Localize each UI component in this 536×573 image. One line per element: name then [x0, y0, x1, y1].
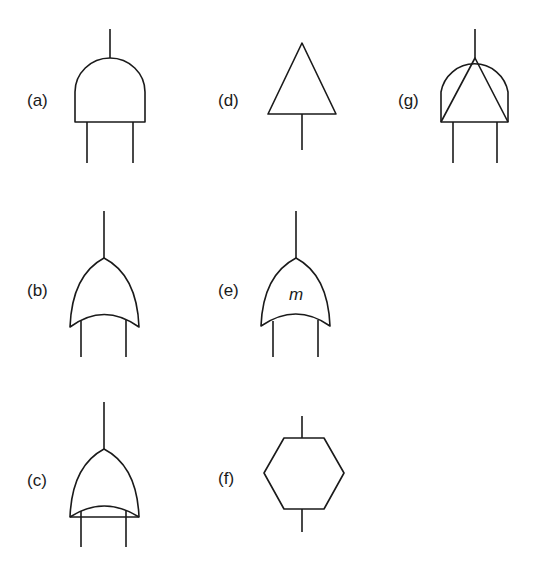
symbol-a-and-gate: (a): [27, 29, 145, 163]
label-g: (g): [398, 91, 419, 110]
label-e: (e): [218, 281, 239, 300]
label-c: (c): [27, 471, 47, 490]
and-gate-body: [75, 58, 145, 122]
symbol-c-or-gate-base: (c): [27, 402, 139, 547]
hexagon-body: [264, 438, 344, 509]
symbol-g-and-triangle: (g): [398, 29, 508, 163]
gate-symbols-diagram: (a) (d) (g) (b) m (e) (c): [0, 0, 536, 573]
symbol-b-or-gate: (b): [27, 211, 139, 357]
symbol-e-or-gate-m: m (e): [218, 211, 330, 357]
symbol-d-triangle: (d): [218, 43, 336, 150]
and-gate-body: [441, 64, 508, 122]
or-gate-body: [70, 258, 139, 327]
inner-label-m: m: [289, 285, 303, 304]
label-f: (f): [218, 469, 234, 488]
label-b: (b): [27, 281, 48, 300]
triangle-body: [268, 43, 336, 114]
label-d: (d): [218, 91, 239, 110]
symbol-f-hexagon: (f): [218, 416, 344, 532]
label-a: (a): [27, 91, 48, 110]
